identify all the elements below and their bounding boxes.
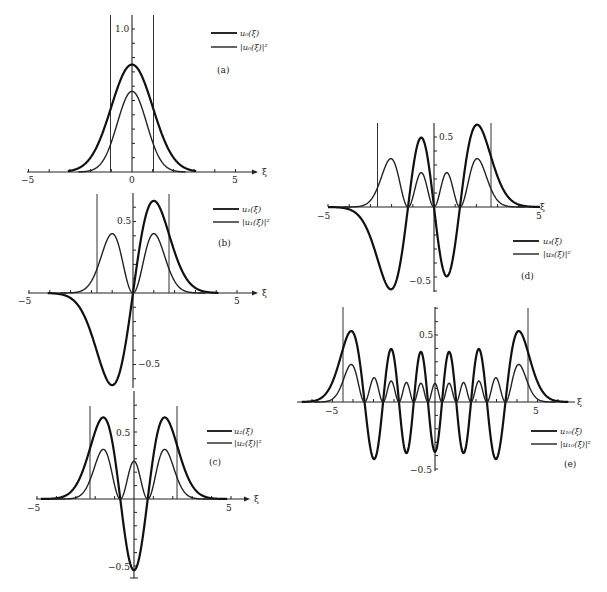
x-tick-label: 5 <box>226 503 232 513</box>
panel-label: (d) <box>521 271 534 281</box>
x-axis-label: ξ <box>540 202 545 212</box>
x-tick-label: 5 <box>536 211 542 221</box>
x-axis-label: ξ <box>577 397 582 407</box>
x-axis-label: ξ <box>262 288 267 298</box>
x-tick-label: −5 <box>21 175 35 185</box>
x-axis-arrow-icon <box>252 291 258 296</box>
legend-label: |u₁₀(ξ)|² <box>560 440 591 449</box>
panel-d: −5 5 ξ 0.5 −0.5 u₃(ξ) |u₃(ξ)|² (d) <box>317 123 571 292</box>
y-tick-label: 1.0 <box>115 24 130 34</box>
panel-e: −5 5 ξ 0.5 −0.5 u₁₀(ξ) |u₁₀(ξ)|² (e) <box>297 307 591 475</box>
panel-label: (a) <box>217 65 229 75</box>
legend-label: u₂(ξ) <box>234 427 253 436</box>
legend-label: |u₃(ξ)|² <box>543 250 571 259</box>
x-axis-label: ξ <box>254 494 259 504</box>
x-tick-label: −5 <box>27 503 41 513</box>
y-tick-label: −0.5 <box>409 276 431 286</box>
x-tick-label: −5 <box>18 296 32 306</box>
legend-label: u₀(ξ) <box>240 29 259 38</box>
y-tick-label: 0.5 <box>116 428 131 438</box>
x-tick-label: 5 <box>232 175 238 185</box>
panel-label: (b) <box>218 238 231 248</box>
x-tick-label: 5 <box>533 406 539 416</box>
panel-b: −5 5 ξ 0.5 −0.5 u₁(ξ) |u₁(ξ)|² (b) <box>18 193 270 388</box>
panel-a: −5 0 5 ξ 1.0 u₀(ξ) |u₀(ξ)|² (a) <box>21 15 268 185</box>
legend-label: u₁(ξ) <box>242 205 261 214</box>
x-tick-label: 0 <box>129 175 135 185</box>
y-tick-label: 0.5 <box>419 330 434 340</box>
x-axis-arrow-icon <box>244 497 250 502</box>
y-tick-label: −0.5 <box>108 562 130 572</box>
panel-label: (e) <box>564 459 576 469</box>
panel-label: (c) <box>209 457 221 467</box>
figure-canvas: −5 0 5 ξ 1.0 u₀(ξ) |u₀(ξ)|² (a) −5 5 ξ 0… <box>0 0 607 592</box>
x-tick-label: −5 <box>325 406 339 416</box>
y-tick-label: 0.5 <box>117 216 132 226</box>
legend-label: |u₂(ξ)|² <box>234 439 262 448</box>
legend-label: |u₀(ξ)|² <box>240 43 268 52</box>
legend-label: u₃(ξ) <box>543 237 562 246</box>
y-tick-label: −0.5 <box>138 359 160 369</box>
y-tick-label: 0.5 <box>439 132 454 142</box>
x-axis-arrow-icon <box>252 170 258 175</box>
x-axis-label: ξ <box>262 167 267 177</box>
x-tick-label: −5 <box>317 211 331 221</box>
y-tick-label: −0.5 <box>410 465 432 475</box>
panel-c: −5 5 ξ 0.5 −0.5 u₂(ξ) |u₂(ξ)|² (c) <box>27 391 262 578</box>
x-tick-label: 5 <box>234 296 240 306</box>
legend-label: |u₁(ξ)|² <box>242 218 270 227</box>
legend-label: u₁₀(ξ) <box>560 427 582 436</box>
